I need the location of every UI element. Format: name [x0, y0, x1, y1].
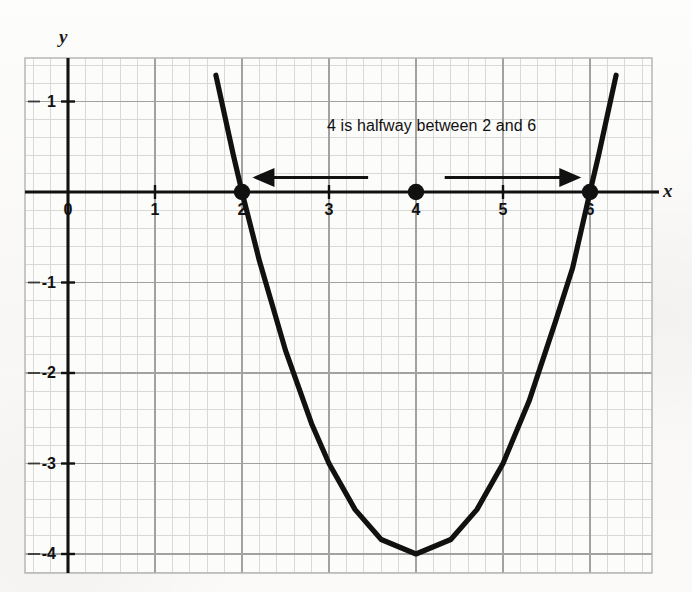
y-tick-label-neg1: -1	[0, 274, 56, 292]
y-tick-label-neg3: -3	[0, 455, 56, 473]
x-axis-label: x	[663, 180, 673, 202]
x-tick-label-2: 2	[238, 201, 247, 219]
x-tick-label-3: 3	[325, 201, 334, 219]
x-tick-label-4: 4	[412, 201, 421, 219]
x-tick-label-6: 6	[586, 201, 595, 219]
marked-point-x6	[582, 184, 598, 200]
x-tick-label-0: 0	[64, 201, 73, 219]
marked-point-x4	[408, 184, 424, 200]
halfway-annotation-text: 4 is halfway between 2 and 6	[327, 117, 536, 135]
y-tick-label-1: 1	[0, 93, 56, 111]
coordinate-plot	[0, 0, 692, 592]
graph-figure: y x 0123456 1-1-2-3-4 4 is halfway betwe…	[0, 0, 692, 592]
x-tick-label-1: 1	[151, 201, 160, 219]
y-axis-label: y	[59, 26, 67, 48]
marked-point-x2	[234, 184, 250, 200]
y-tick-label-neg4: -4	[0, 545, 56, 563]
x-tick-label-5: 5	[499, 201, 508, 219]
y-tick-label-neg2: -2	[0, 364, 56, 382]
